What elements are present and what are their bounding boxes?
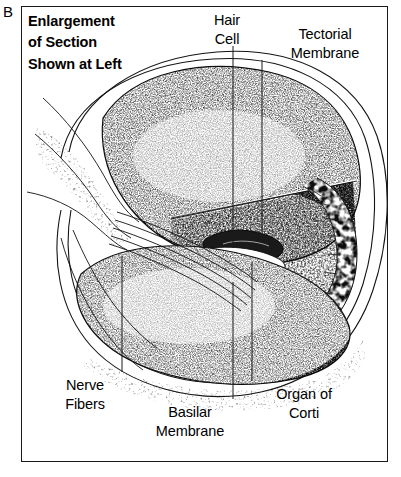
panel-letter: B <box>3 4 13 19</box>
label-tectorial-membrane: Tectorial Membrane <box>265 25 385 62</box>
label-organ-of-corti: Organ of Corti <box>252 385 356 422</box>
label-nerve-fibers: Nerve Fibers <box>48 376 122 413</box>
label-basilar-membrane: Basilar Membrane <box>131 403 249 440</box>
label-hair-cell: Hair Cell <box>196 11 258 48</box>
figure-title: Enlargement of Section Shown at Left <box>28 11 122 75</box>
figure-root: B <box>0 0 401 477</box>
